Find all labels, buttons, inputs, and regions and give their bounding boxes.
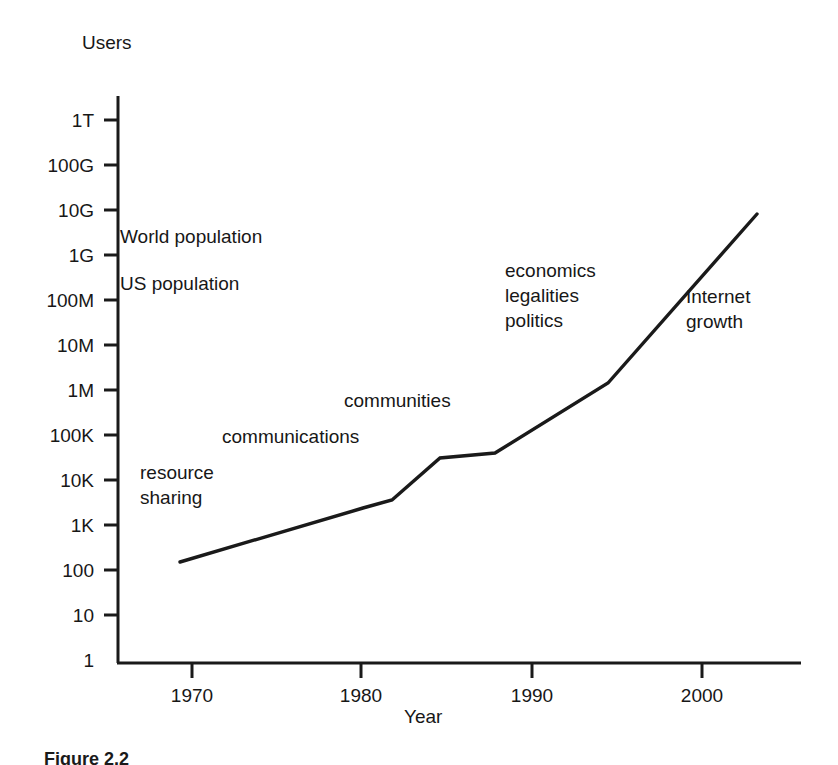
ytick-label-1k: 1K xyxy=(28,515,94,537)
xtick-label-1990: 1990 xyxy=(497,685,567,707)
axis-lines xyxy=(117,96,801,663)
chart-plot-area xyxy=(0,0,838,765)
ytick-label-10: 10 xyxy=(28,605,94,627)
figure-container: Users Year 1T 100G 10G 1G 100M 10M 1M 10… xyxy=(0,0,838,765)
y-axis-ticks xyxy=(104,120,118,615)
annotation-world-population: World population xyxy=(120,224,262,249)
annotation-communications: communications xyxy=(222,424,359,449)
x-axis-ticks xyxy=(192,663,702,678)
xtick-label-1980: 1980 xyxy=(326,685,396,707)
ytick-label-1: 1 xyxy=(28,650,94,672)
ytick-label-10m: 10M xyxy=(28,335,94,357)
ytick-label-100g: 100G xyxy=(28,155,94,177)
annotation-resource-sharing: resource sharing xyxy=(140,460,214,510)
ytick-label-100k: 100K xyxy=(28,425,94,447)
ytick-label-10g: 10G xyxy=(28,200,94,222)
annotation-communities: communities xyxy=(344,388,451,413)
ytick-label-100m: 100M xyxy=(28,290,94,312)
xtick-label-1970: 1970 xyxy=(157,685,227,707)
y-axis-title: Users xyxy=(82,32,132,54)
annotation-us-population: US population xyxy=(120,271,239,296)
annotation-internet-growth: Internet growth xyxy=(686,284,750,334)
annotation-economics-legalities-politics: economics legalities politics xyxy=(505,258,596,333)
xtick-label-2000: 2000 xyxy=(667,685,737,707)
figure-caption: Figure 2.2 xyxy=(44,749,129,765)
ytick-label-1g: 1G xyxy=(28,245,94,267)
ytick-label-1t: 1T xyxy=(28,110,94,132)
x-axis-title: Year xyxy=(404,706,442,728)
data-series-line xyxy=(180,214,757,562)
ytick-label-10k: 10K xyxy=(28,470,94,492)
ytick-label-100: 100 xyxy=(28,560,94,582)
ytick-label-1m: 1M xyxy=(28,380,94,402)
